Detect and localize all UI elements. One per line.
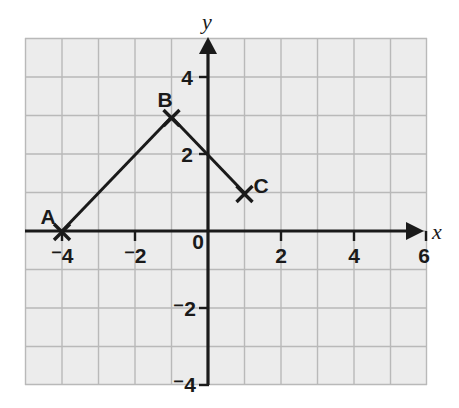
plot-background xyxy=(25,38,427,385)
x-tick-label-6: 6 xyxy=(418,244,430,267)
x-tick-label-neg4: ⁻4 xyxy=(51,244,74,267)
coordinate-plane-figure: ⁻4 ⁻2 0 2 4 6 4 2 ⁻2 ⁻4 x y xyxy=(0,0,459,408)
coordinate-plane-svg: ⁻4 ⁻2 0 2 4 6 4 2 ⁻2 ⁻4 x y xyxy=(0,0,459,408)
point-label-b: B xyxy=(157,88,172,111)
x-tick-label-zero: 0 xyxy=(192,230,204,253)
point-label-a: A xyxy=(40,205,55,228)
x-tick-label-neg2: ⁻2 xyxy=(124,244,147,267)
y-tick-label-2: 2 xyxy=(181,143,193,166)
point-label-c: C xyxy=(253,174,268,197)
y-tick-label-neg2: ⁻2 xyxy=(173,297,196,320)
y-tick-label-neg4: ⁻4 xyxy=(173,373,196,396)
x-tick-label-4: 4 xyxy=(348,244,360,267)
y-axis-label: y xyxy=(200,9,212,34)
y-tick-label-4: 4 xyxy=(181,66,193,89)
x-axis-label: x xyxy=(431,219,442,244)
x-tick-label-2: 2 xyxy=(275,244,287,267)
